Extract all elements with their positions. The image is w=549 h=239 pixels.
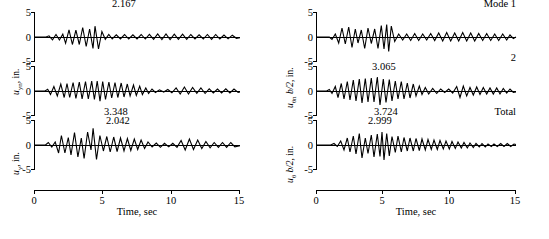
x-tick-5: [102, 190, 103, 194]
y-axis-label-left-top: uyn, in.: [12, 69, 24, 95]
y-axis-label-unit: , in.: [11, 69, 21, 84]
peak-annotation-right-bottom: 3.724: [374, 107, 398, 118]
y-axis-label-var: u: [11, 170, 21, 175]
y-axis-label-unit: , in.: [11, 152, 21, 167]
panel-label-total: Total: [495, 107, 516, 118]
x-tick-5: [382, 190, 383, 194]
y-axis-label-sub: y: [16, 167, 24, 171]
y-axis-label-sub: θn: [290, 96, 298, 103]
panel-label-mode-2: 2: [511, 53, 516, 64]
y-axis-label-right-top: uθn b/2, in.: [286, 67, 298, 108]
panel-label-mode-1: Mode 1: [484, 0, 516, 10]
x-tick-label-15: 15: [234, 196, 245, 207]
y-axis-label-var: u: [11, 90, 21, 95]
x-tick-15: [239, 190, 240, 194]
left-column: 5 0 -5 2.167 5 0 -5 2.042 5 0 -5: [0, 0, 275, 239]
figure-time-history-panels: 5 0 -5 2.167 5 0 -5 2.042 5 0 -5: [0, 0, 549, 239]
waveform-right-top: [316, 12, 516, 62]
x-tick-label-0: 0: [31, 196, 36, 207]
y-axis-label-mid: b/2: [285, 82, 295, 97]
waveform-left-middle: [34, 66, 240, 116]
y-axis-label-var: u: [285, 178, 295, 183]
plot-right-top: 5 0 -5 3.065 Mode 1: [316, 12, 516, 62]
x-tick-label-5: 5: [379, 196, 384, 207]
x-tick-label-15: 15: [510, 196, 521, 207]
y-axis-label-sub: yn: [16, 83, 24, 90]
peak-annotation-left-top: 2.167: [112, 0, 136, 10]
plot-left-middle: 5 0 -5 2.042: [34, 66, 240, 116]
x-axis-title-right: Time, sec: [316, 207, 516, 218]
x-tick-10: [171, 190, 172, 194]
y-tick-label-mid: 0: [308, 87, 313, 98]
waveform-left-bottom: [34, 120, 240, 170]
x-tick-0: [316, 190, 317, 194]
y-axis-label-unit: , in.: [285, 146, 295, 161]
y-tick-label-mid: 0: [26, 141, 31, 152]
y-axis-label-mid: b/2: [285, 160, 295, 175]
y-tick-label-top: 5: [26, 8, 31, 19]
y-tick-label-mid: 0: [26, 87, 31, 98]
y-tick-label-top: 5: [308, 116, 313, 127]
right-column: 5 0 -5 3.065 Mode 1 5 0 -5 2.999 2: [274, 0, 549, 239]
x-axis-title-left: Time, sec: [34, 207, 240, 218]
peak-annotation-left-bottom: 3.348: [104, 107, 128, 118]
waveform-left-top: [34, 12, 240, 62]
x-tick-0: [34, 190, 35, 194]
y-axis-label-left-bottom: uy, in.: [12, 152, 24, 175]
x-axis-right: 0 5 10 15: [316, 190, 516, 191]
plot-left-top: 5 0 -5 2.167: [34, 12, 240, 62]
plot-right-bottom: 5 0 -5 3.724 Total: [316, 120, 516, 170]
y-tick-label-top: 5: [26, 62, 31, 73]
y-axis-label-sub: θ: [290, 175, 298, 178]
y-tick-label-mid: 0: [308, 33, 313, 44]
y-tick-label-top: 5: [26, 116, 31, 127]
y-tick-label-top: 5: [308, 62, 313, 73]
waveform-right-middle: [316, 66, 516, 116]
y-tick-label-bot: -5: [304, 165, 313, 176]
plot-right-middle: 5 0 -5 2.999 2: [316, 66, 516, 116]
y-axis-label-right-bottom: uθ b/2, in.: [286, 146, 298, 183]
x-tick-label-5: 5: [99, 196, 104, 207]
y-axis-label-var: u: [285, 103, 295, 108]
y-tick-label-top: 5: [308, 8, 313, 19]
y-tick-label-mid: 0: [26, 33, 31, 44]
x-tick-15: [515, 190, 516, 194]
x-tick-label-10: 10: [166, 196, 177, 207]
waveform-right-bottom: [316, 120, 516, 170]
plot-left-bottom: 5 0 -5 3.348: [34, 120, 240, 170]
y-tick-label-mid: 0: [308, 141, 313, 152]
x-tick-label-0: 0: [313, 196, 318, 207]
y-axis-label-unit: , in.: [285, 67, 295, 82]
x-axis-left: 0 5 10 15: [34, 190, 240, 191]
x-tick-label-10: 10: [444, 196, 455, 207]
x-tick-10: [449, 190, 450, 194]
